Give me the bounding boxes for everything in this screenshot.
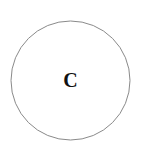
diagram-canvas: C <box>0 0 145 153</box>
node-label: C <box>63 69 77 91</box>
node-c: C <box>11 21 130 140</box>
